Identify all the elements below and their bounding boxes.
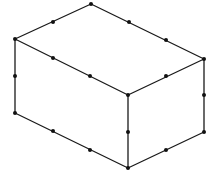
division-point [164,148,168,152]
division-point [51,129,55,133]
division-point [164,74,168,78]
division-point [127,20,131,24]
vertex-bottom-right [202,130,206,134]
top-left-front-edge [15,39,128,95]
vertex-top-left [13,37,17,41]
division-point [202,93,206,97]
division-point [126,130,130,134]
cuboid-diagram [0,0,216,179]
vertex-top-front [126,93,130,97]
division-point [164,38,168,42]
vertex-bottom-left [13,111,17,115]
bottom-left-front-edge [15,113,128,168]
vertex-top-right [202,57,206,61]
cuboid-edges [15,4,204,168]
vertex-top-back [89,2,93,6]
division-point [88,148,92,152]
division-point [88,74,92,78]
division-point [13,74,17,78]
vertex-bottom-front [126,166,130,170]
division-point [51,20,55,24]
top-back-right-edge [91,4,204,59]
division-point [51,56,55,60]
